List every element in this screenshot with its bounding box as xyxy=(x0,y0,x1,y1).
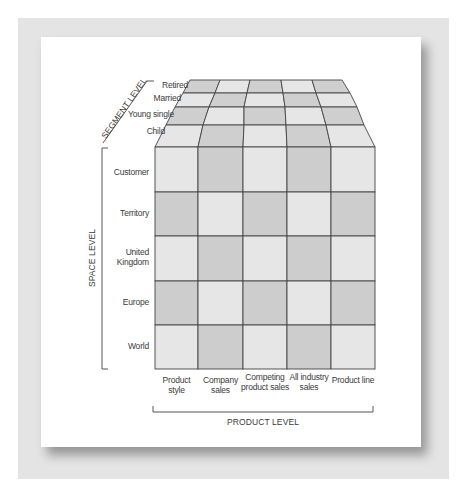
space-label-world: World xyxy=(128,342,149,352)
segment-label-married: Married xyxy=(154,94,181,104)
space-label-europe: Europe xyxy=(123,298,149,308)
front-face-grid xyxy=(155,147,375,369)
product-level-title: PRODUCT LEVEL xyxy=(153,417,373,427)
space-level-bracket xyxy=(102,148,108,369)
segment-label-retired: Retired xyxy=(162,81,188,91)
top-face-grid xyxy=(155,80,375,147)
product-label-all-industry-sales: All industry sales xyxy=(287,373,331,392)
segment-label-child: Child xyxy=(147,127,165,137)
space-label-united-kingdom: United Kingdom xyxy=(109,248,149,267)
product-label-product-style: Product style xyxy=(155,376,198,395)
space-label-customer: Customer xyxy=(114,168,149,178)
space-label-territory: Territory xyxy=(120,209,149,219)
product-label-competing-product-sales: Competing product sales xyxy=(241,373,289,392)
space-level-title: SPACE LEVEL xyxy=(87,228,97,288)
product-label-company-sales: Company sales xyxy=(198,376,243,395)
product-label-product-line: Product line xyxy=(331,376,375,386)
product-level-bracket xyxy=(153,406,373,412)
segment-label-young-single: Young single xyxy=(128,110,174,120)
